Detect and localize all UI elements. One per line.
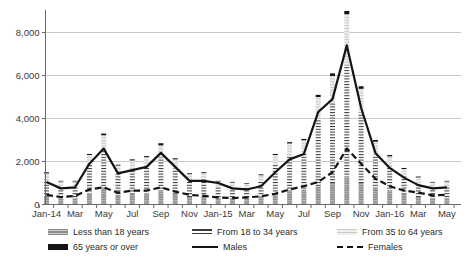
bar-segment [316,186,321,204]
bar-segment [402,194,407,205]
legend-label-from-18-to-34-years: From 18 to 34 years [217,227,298,237]
bar-segment [373,140,378,142]
bar-may-15 [273,154,278,205]
legend-item-females: Females [337,242,403,252]
bar-feb-15 [230,182,235,205]
x-tick-label: Sep [324,208,341,219]
legend-label-from-35-to-64-years: From 35 to 64 years [362,227,443,237]
bar-segment [173,194,178,205]
bar-segment [359,112,364,183]
y-tick-label: 2,000 [16,156,40,167]
x-tick-label: Jul [126,208,138,219]
bar-apr-16 [430,182,435,205]
bar-segment [101,149,106,188]
legend-swatch-from-18-to-34-years [192,229,212,236]
bar-feb-16 [402,168,407,205]
bar-segment [230,182,235,183]
bar-jul-14 [130,159,135,204]
bar-segment [158,157,163,190]
legend-item-males: Males [192,242,247,252]
bar-segment [301,153,306,189]
bar-segment [316,119,321,187]
bar-segment [373,187,378,204]
bar-segment [173,158,178,159]
bar-segment [373,155,378,188]
legend-swatch-males [192,246,218,248]
bar-segment [330,73,335,76]
legend-label-females: Females [368,242,403,252]
line-males [47,45,447,189]
bar-segment [301,189,306,204]
x-tick-label: Jan-15 [204,208,233,219]
bar-segment [216,181,221,182]
x-tick-label: May [266,208,284,219]
bar-segment [316,95,321,97]
bar-segment [402,168,407,169]
bar-segment [158,191,163,205]
bar-segment [287,143,292,155]
bar-segment [359,183,364,205]
bar-segment [273,154,278,155]
y-tick-label: 4,000 [16,113,40,124]
legend-label-less-than-18-years: Less than 18 years [73,227,149,237]
bar-may-16 [444,181,449,205]
x-tick-label: Sep [152,208,169,219]
bar-segment [287,191,292,205]
y-tick-label: 8,000 [16,27,40,38]
bar-segment [58,181,63,186]
bar-segment [244,184,249,188]
bar-segment [158,143,163,145]
bar-segment [116,165,121,166]
bar-segment [244,198,249,204]
bar-feb-14 [58,181,63,205]
x-tick-label: Jan-16 [375,208,404,219]
bar-segment [444,198,449,204]
bar-segment [116,195,121,205]
bar-segment [344,65,349,177]
bar-segment [216,198,221,204]
bar-segment [444,181,449,186]
bar-segment [387,191,392,205]
bar-mar-16 [416,177,421,205]
bar-segment [244,183,249,184]
legend-label-males: Males [223,242,247,252]
bar-segment [44,196,49,205]
x-tick-label: Jul [298,208,310,219]
x-tick-label: Mar [410,208,426,219]
legend-item-from-35-to-64-years: From 35 to 64 years [337,227,443,237]
x-tick-label: Mar [239,208,255,219]
bar-segment [130,159,135,160]
legend-item-from-18-to-34-years: From 18 to 34 years [192,227,298,237]
x-tick-label: May [438,208,456,219]
bar-segment [201,172,206,173]
legend-swatch-65-years-or-over [48,244,68,250]
bar-jun-15 [287,142,292,204]
bar-segment [101,188,106,204]
bar-segment [430,183,435,188]
bar-segment [344,177,349,205]
legend-item-65-years-or-over: 65 years or over [48,242,138,252]
chart-legend: Less than 18 yearsFrom 18 to 34 yearsFro… [0,222,466,264]
legend-swatch-females [337,246,363,248]
x-tick-label: Nov [353,208,370,219]
bar-segment [259,175,264,181]
x-tick-label: May [95,208,113,219]
bar-segment [273,155,278,165]
bar-may-14 [101,134,106,205]
bar-segment [387,155,392,156]
bar-segment [416,177,421,178]
bar-segment [444,181,449,182]
bar-segment [87,193,92,205]
bar-segment [44,172,49,173]
x-tick-label: Mar [67,208,83,219]
bar-segment [44,173,49,179]
bar-dec-14 [201,172,206,204]
bar-segment [130,194,135,205]
bar-jan-14 [44,172,49,204]
bar-segment [273,165,278,193]
legend-item-less-than-18-years: Less than 18 years [48,227,149,237]
bar-segment [58,198,63,204]
bar-segment [430,198,435,204]
bar-segment [287,142,292,143]
bar-aug-14 [144,156,149,204]
